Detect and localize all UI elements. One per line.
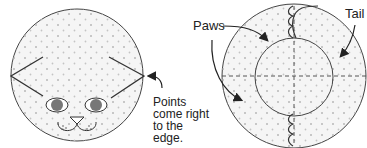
annotation-line: edge. bbox=[153, 132, 223, 144]
eye-right-icon bbox=[85, 98, 107, 112]
eye-left-icon bbox=[46, 98, 68, 112]
cat-body-circle bbox=[222, 4, 366, 148]
tail-label: Tail bbox=[345, 8, 365, 20]
annotation-arrow-icon bbox=[149, 76, 162, 88]
points-annotation: Points come right to the edge. bbox=[153, 96, 223, 144]
paws-label: Paws bbox=[193, 20, 225, 32]
cat-face-circle bbox=[11, 9, 144, 141]
